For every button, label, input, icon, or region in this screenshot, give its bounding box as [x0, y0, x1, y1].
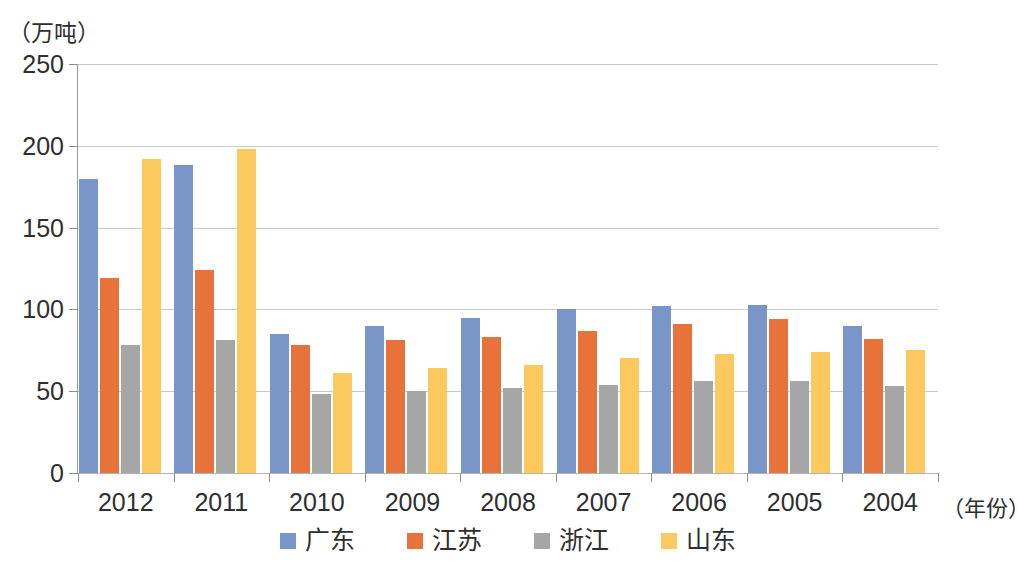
bar[interactable]: [769, 319, 788, 473]
x-axis-category-label: 2005: [767, 488, 823, 517]
y-axis-tick: [69, 309, 78, 310]
y-axis-tick: [69, 146, 78, 147]
bar[interactable]: [142, 159, 161, 473]
bar[interactable]: [503, 388, 522, 473]
bar-group: [174, 64, 270, 473]
bar[interactable]: [216, 340, 235, 473]
x-axis-tick: [747, 473, 748, 482]
bar[interactable]: [237, 149, 256, 473]
bar-group: [365, 64, 461, 473]
y-axis-tick-label: 50: [36, 377, 64, 406]
bar[interactable]: [121, 345, 140, 473]
legend-label: 江苏: [432, 528, 482, 553]
legend-label: 山东: [686, 528, 736, 553]
bar[interactable]: [386, 340, 405, 473]
bar[interactable]: [365, 326, 384, 473]
x-axis-tick: [174, 473, 175, 482]
y-axis-tick: [69, 391, 78, 392]
y-axis-tick: [69, 64, 78, 65]
legend-swatch-icon: [407, 533, 423, 549]
bar-group: [651, 64, 747, 473]
bar[interactable]: [599, 385, 618, 473]
x-axis-tick: [78, 473, 79, 482]
bar[interactable]: [524, 365, 543, 473]
x-axis-title: （年份）: [942, 490, 1020, 522]
bar[interactable]: [843, 326, 862, 473]
bar[interactable]: [461, 318, 480, 473]
bar[interactable]: [906, 350, 925, 473]
bar[interactable]: [652, 306, 671, 473]
legend-label: 浙江: [559, 528, 609, 553]
bar[interactable]: [748, 305, 767, 474]
bar-group: [747, 64, 843, 473]
x-axis-category-label: 2011: [194, 488, 248, 517]
bar[interactable]: [195, 270, 214, 473]
x-axis-category-label: 2012: [98, 488, 154, 517]
y-axis-tick: [69, 228, 78, 229]
plot-area: 050100150200250: [78, 64, 938, 473]
bar[interactable]: [428, 368, 447, 473]
bar[interactable]: [885, 386, 904, 473]
bar[interactable]: [312, 394, 331, 473]
legend-swatch-icon: [534, 533, 550, 549]
bar-group: [460, 64, 556, 473]
chart-legend: 广东江苏浙江山东: [0, 528, 1015, 553]
x-axis-tick: [269, 473, 270, 482]
bar[interactable]: [864, 339, 883, 473]
bar[interactable]: [673, 324, 692, 473]
y-axis-tick: [69, 473, 78, 474]
legend-swatch-icon: [280, 533, 296, 549]
bar[interactable]: [407, 391, 426, 473]
legend-item[interactable]: 山东: [661, 528, 736, 553]
x-axis-category-label: 2009: [385, 488, 441, 517]
y-axis-tick-label: 250: [22, 50, 64, 79]
x-axis-category-label: 2008: [480, 488, 536, 517]
bar[interactable]: [620, 358, 639, 473]
legend-item[interactable]: 江苏: [407, 528, 482, 553]
x-axis-tick: [365, 473, 366, 482]
bar[interactable]: [715, 354, 734, 473]
bar-group: [78, 64, 174, 473]
bar[interactable]: [578, 331, 597, 473]
legend-item[interactable]: 广东: [280, 528, 355, 553]
bar-group: [556, 64, 652, 473]
x-axis-category-label: 2006: [671, 488, 727, 517]
x-axis-tick: [938, 473, 939, 482]
bar[interactable]: [482, 337, 501, 473]
bar-group: [842, 64, 938, 473]
bar[interactable]: [100, 278, 119, 473]
x-axis-tick: [651, 473, 652, 482]
x-axis-category-label: 2007: [576, 488, 632, 517]
y-axis-unit-label: （万吨）: [8, 14, 100, 48]
legend-item[interactable]: 浙江: [534, 528, 609, 553]
legend-swatch-icon: [661, 533, 677, 549]
x-axis-category-label: 2010: [289, 488, 345, 517]
x-axis-tick: [842, 473, 843, 482]
legend-label: 广东: [305, 528, 355, 553]
bar[interactable]: [694, 381, 713, 473]
bar[interactable]: [333, 373, 352, 473]
bar[interactable]: [174, 165, 193, 473]
bar[interactable]: [79, 179, 98, 473]
x-axis-tick: [460, 473, 461, 482]
bar[interactable]: [557, 309, 576, 473]
bar[interactable]: [291, 345, 310, 473]
bar[interactable]: [811, 352, 830, 473]
bar[interactable]: [270, 334, 289, 473]
y-axis-tick-label: 0: [50, 459, 64, 488]
x-axis-category-label: 2004: [862, 488, 918, 517]
y-axis-tick-label: 150: [22, 213, 64, 242]
x-axis-tick: [556, 473, 557, 482]
y-axis-tick-label: 200: [22, 131, 64, 160]
bar[interactable]: [790, 381, 809, 473]
y-axis-tick-label: 100: [22, 295, 64, 324]
bar-group: [269, 64, 365, 473]
gridline: [78, 473, 938, 474]
